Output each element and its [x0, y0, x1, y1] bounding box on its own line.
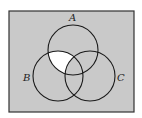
venn-diagram: A B C [0, 0, 142, 118]
label-c: C [117, 72, 125, 83]
label-a: A [68, 12, 76, 23]
label-b: B [22, 72, 30, 83]
